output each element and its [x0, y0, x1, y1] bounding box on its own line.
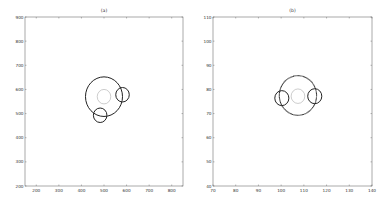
x-tick-label: 800 [168, 188, 176, 193]
chart-title: (a) [101, 8, 108, 13]
y-tick-label: 90 [206, 63, 212, 68]
plot-frame [25, 17, 183, 186]
x-tick-label: 300 [55, 188, 63, 193]
x-tick-label: 80 [233, 188, 239, 193]
y-tick-label: 40 [206, 184, 212, 189]
x-tick-label: 400 [77, 188, 85, 193]
y-tick-label: 50 [206, 159, 212, 164]
plot-frame [213, 17, 372, 186]
x-tick-label: 70 [210, 188, 216, 193]
y-tick-label: 400 [16, 135, 24, 140]
x-tick-label: 130 [345, 188, 353, 193]
y-tick-label: 80 [206, 87, 212, 92]
chart-title: (b) [289, 8, 296, 13]
figure-canvas: (a)2003004005006007008002003004005006007… [0, 0, 389, 204]
x-tick-label: 120 [323, 188, 331, 193]
x-tick-label: 700 [145, 188, 153, 193]
y-tick-label: 600 [16, 87, 24, 92]
x-tick-label: 100 [277, 188, 285, 193]
x-tick-label: 140 [368, 188, 376, 193]
y-tick-label: 300 [16, 159, 24, 164]
y-tick-label: 800 [16, 39, 24, 44]
y-tick-label: 110 [204, 15, 212, 20]
x-tick-label: 90 [256, 188, 262, 193]
x-tick-label: 110 [300, 188, 308, 193]
y-tick-label: 70 [206, 111, 212, 116]
y-tick-label: 60 [206, 135, 212, 140]
y-tick-label: 500 [16, 111, 24, 116]
y-tick-label: 100 [204, 39, 212, 44]
y-tick-label: 900 [16, 15, 24, 20]
x-tick-label: 200 [32, 188, 40, 193]
x-tick-label: 500 [100, 188, 108, 193]
subplot-b: (b)7080901001101201301404050607080901001… [204, 8, 377, 193]
subplot-a: (a)2003004005006007008002003004005006007… [16, 8, 184, 193]
y-tick-label: 200 [16, 184, 24, 189]
y-tick-label: 700 [16, 63, 24, 68]
x-tick-label: 600 [123, 188, 131, 193]
